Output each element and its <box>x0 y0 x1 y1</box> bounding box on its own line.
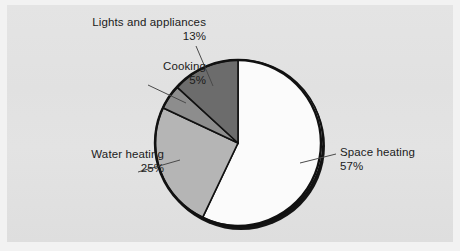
slice-label-space-name: Space heating <box>340 146 452 160</box>
slice-label-lights-percent: 13% <box>84 30 206 44</box>
slice-label-cooking-percent: 5% <box>82 74 206 88</box>
slice-label-space-heating: Space heating 57% <box>340 146 452 173</box>
slice-label-cooking: Cooking 5% <box>82 60 206 87</box>
pie-chart-screenshot: Lights and appliances 13% Cooking 5% Wat… <box>0 0 460 251</box>
slice-label-cooking-name: Cooking <box>82 60 206 74</box>
slice-label-space-percent: 57% <box>340 160 452 174</box>
pie-chart-graphic <box>0 0 460 251</box>
slice-label-water-heating: Water heating 25% <box>42 148 164 175</box>
slice-label-water-name: Water heating <box>42 148 164 162</box>
slice-label-water-percent: 25% <box>42 162 164 176</box>
slice-label-lights-and-appliances: Lights and appliances 13% <box>84 16 206 43</box>
slice-label-lights-name: Lights and appliances <box>84 16 206 30</box>
